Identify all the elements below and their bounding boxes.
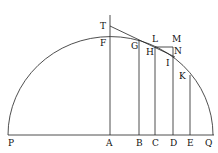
- label-i: I: [166, 59, 170, 68]
- label-m: M: [172, 35, 181, 44]
- label-g: G: [131, 42, 138, 51]
- label-q: Q: [205, 139, 212, 148]
- tangent-tn: [110, 26, 175, 57]
- label-c: C: [152, 139, 159, 148]
- arc: [8, 37, 213, 135]
- label-p: P: [8, 139, 14, 148]
- label-d: D: [170, 139, 177, 148]
- label-n: N: [174, 47, 182, 56]
- label-t: T: [100, 22, 106, 31]
- label-e: E: [187, 139, 194, 148]
- label-b: B: [136, 139, 143, 148]
- label-f: F: [100, 39, 106, 48]
- label-l: L: [152, 35, 158, 44]
- label-a: A: [106, 139, 113, 148]
- label-k: K: [179, 72, 186, 81]
- diagram: T F G L M H N I K P A B C D E Q: [0, 0, 218, 153]
- label-h: H: [146, 48, 154, 57]
